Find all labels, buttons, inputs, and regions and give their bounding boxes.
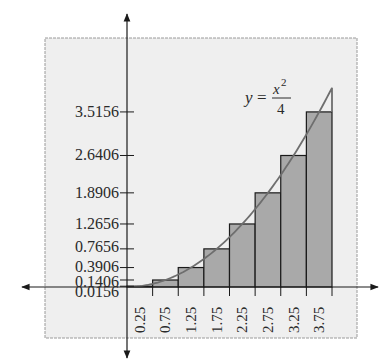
equation-lhs: y (243, 88, 253, 107)
x-tick-label: 1.25 (183, 307, 199, 333)
equation-equals: = (257, 88, 267, 107)
y-tick-label: 1.2656 (75, 215, 119, 232)
bar (255, 193, 281, 287)
x-tick-label: 0.25 (132, 307, 148, 333)
riemann-sum-chart: 0.01560.14060.39060.76561.26561.89062.64… (0, 0, 384, 364)
y-tick-label: 0.3906 (75, 258, 119, 275)
x-tick-label: 3.75 (311, 307, 327, 333)
bar (178, 268, 204, 287)
equation-numerator-base: x (272, 81, 280, 97)
y-tick-label: 1.8906 (75, 184, 119, 201)
y-tick-label: 3.5156 (75, 103, 119, 120)
bar (204, 249, 230, 287)
x-tick-label: 2.25 (234, 307, 250, 333)
x-tick-label: 2.75 (260, 307, 276, 333)
y-tick-label: 0.1406 (75, 273, 119, 290)
x-tick-label: 3.25 (286, 307, 302, 333)
bar (281, 155, 307, 287)
y-tick-label: 2.6406 (75, 146, 119, 163)
x-tick-label: 0.75 (157, 307, 173, 333)
bar (306, 112, 332, 287)
y-tick-label: 0.7656 (75, 238, 119, 255)
equation-denominator: 4 (277, 101, 285, 117)
x-tick-label: 1.75 (209, 307, 225, 333)
equation-numerator-exponent: 2 (281, 76, 287, 88)
